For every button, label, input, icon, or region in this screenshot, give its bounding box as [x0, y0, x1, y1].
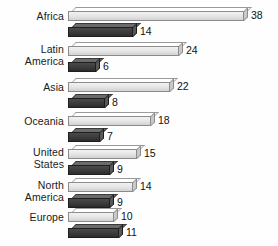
- category-label-line: Asia: [0, 82, 64, 94]
- bar-dark[interactable]: 11: [68, 224, 123, 238]
- bar-group: Africa3814: [0, 7, 278, 39]
- bar-value-label: 22: [177, 80, 189, 92]
- bar-light[interactable]: 22: [68, 78, 174, 92]
- bar-value-label: 24: [186, 44, 198, 56]
- bar-value-label: 10: [121, 210, 133, 222]
- bar-dark[interactable]: 9: [68, 194, 114, 208]
- bar-dark[interactable]: 14: [68, 23, 137, 37]
- bar-top-face: [72, 23, 141, 27]
- bar-light[interactable]: 10: [68, 208, 118, 222]
- bar-top-face: [72, 112, 159, 116]
- bar-value-label: 18: [158, 114, 170, 126]
- bar-value-label: 8: [112, 96, 118, 108]
- bar-light[interactable]: 15: [68, 145, 141, 159]
- bar-light[interactable]: 18: [68, 112, 155, 126]
- bar-top-face: [72, 42, 187, 46]
- bar-value-label: 14: [140, 180, 152, 192]
- category-label-line: America: [0, 56, 64, 68]
- bar-side-face: [110, 194, 114, 208]
- category-label-united-states: UnitedStates: [0, 147, 64, 170]
- category-label-line: Europe: [0, 212, 64, 224]
- bar-value-label: 9: [117, 163, 123, 175]
- bar-value-label: 14: [140, 25, 152, 37]
- bar-value-label: 6: [103, 60, 109, 72]
- bar-dark[interactable]: 7: [68, 128, 104, 142]
- bar-side-face: [179, 42, 183, 56]
- bar-value-label: 38: [251, 9, 263, 21]
- bar-group: Oceania187: [0, 112, 278, 144]
- bar-side-face: [114, 208, 118, 222]
- category-label-line: Africa: [0, 11, 64, 23]
- bar-front-face: [68, 182, 133, 192]
- bar-dark[interactable]: 9: [68, 161, 114, 175]
- bar-group: Europe1011: [0, 208, 278, 240]
- bar-front-face: [68, 228, 119, 238]
- category-label-line: Oceania: [0, 116, 64, 128]
- bar-chart: Africa3814LatinAmerica246Asia228Oceania1…: [0, 0, 278, 246]
- bar-front-face: [68, 116, 151, 126]
- bar-group: LatinAmerica246: [0, 42, 278, 74]
- bar-dark[interactable]: 6: [68, 58, 100, 72]
- bar-group: UnitedStates159: [0, 145, 278, 177]
- category-label-line: Latin: [0, 44, 64, 56]
- bar-group: NorthAmerica149: [0, 178, 278, 210]
- bar-front-face: [68, 46, 179, 56]
- category-label-north-america: NorthAmerica: [0, 180, 64, 203]
- bar-value-label: 11: [126, 226, 137, 238]
- category-label-line: United: [0, 147, 64, 159]
- category-label-europe: Europe: [0, 212, 64, 224]
- category-label-oceania: Oceania: [0, 116, 64, 128]
- category-label-line: North: [0, 180, 64, 192]
- bar-top-face: [72, 78, 178, 82]
- bar-side-face: [96, 58, 100, 72]
- bar-front-face: [68, 132, 100, 142]
- bar-side-face: [105, 94, 109, 108]
- bar-side-face: [133, 178, 137, 192]
- category-label-line: America: [0, 192, 64, 204]
- bar-side-face: [151, 112, 155, 126]
- bar-value-label: 7: [107, 130, 113, 142]
- bar-front-face: [68, 98, 105, 108]
- category-label-latin-america: LatinAmerica: [0, 44, 64, 67]
- bar-front-face: [68, 82, 170, 92]
- bar-top-face: [72, 178, 141, 182]
- bar-front-face: [68, 165, 110, 175]
- bar-front-face: [68, 149, 137, 159]
- bar-top-face: [72, 7, 252, 11]
- category-label-africa: Africa: [0, 11, 64, 23]
- bar-side-face: [244, 7, 248, 21]
- bar-front-face: [68, 62, 96, 72]
- bar-value-label: 15: [144, 147, 156, 159]
- bar-side-face: [119, 224, 123, 238]
- category-label-asia: Asia: [0, 82, 64, 94]
- bar-group: Asia228: [0, 78, 278, 110]
- bar-light[interactable]: 14: [68, 178, 137, 192]
- bar-front-face: [68, 212, 114, 222]
- bar-front-face: [68, 11, 244, 21]
- bar-side-face: [137, 145, 141, 159]
- bar-dark[interactable]: 8: [68, 94, 109, 108]
- bar-light[interactable]: 24: [68, 42, 183, 56]
- bar-side-face: [100, 128, 104, 142]
- bar-front-face: [68, 198, 110, 208]
- bar-top-face: [72, 145, 145, 149]
- bar-front-face: [68, 27, 133, 37]
- category-label-line: States: [0, 159, 64, 171]
- bar-side-face: [133, 23, 137, 37]
- bar-side-face: [170, 78, 174, 92]
- bar-side-face: [110, 161, 114, 175]
- bar-light[interactable]: 38: [68, 7, 248, 21]
